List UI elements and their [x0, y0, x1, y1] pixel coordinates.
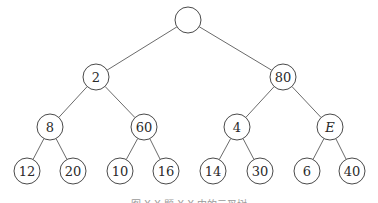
tree-node-4: 4 [224, 114, 250, 140]
tree-edge [336, 139, 346, 160]
node-label: 2 [92, 70, 100, 85]
tree-node-6: 6 [294, 158, 320, 184]
tree-edges [33, 27, 346, 160]
tree-node-2: 2 [83, 64, 109, 90]
node-label: E [324, 120, 335, 135]
tree-edge [243, 139, 254, 160]
tree-node-40: 40 [339, 158, 365, 184]
node-label: 60 [136, 120, 153, 135]
node-label: 8 [46, 120, 54, 135]
tree-node-14: 14 [200, 158, 226, 184]
node-circle [175, 7, 201, 33]
tree-edge [150, 139, 160, 160]
tree-node-10: 10 [107, 158, 133, 184]
tree-node-20: 20 [60, 158, 86, 184]
tree-node-60: 60 [131, 114, 157, 140]
tree-node-8: 8 [37, 114, 63, 140]
tree-edge [59, 87, 87, 118]
node-label: 12 [19, 164, 36, 179]
node-label: 10 [112, 164, 129, 179]
tree-edge [56, 139, 67, 160]
tree-edge [219, 138, 231, 159]
tree-edge [107, 27, 177, 70]
binary-tree-diagram: 2808604E122010161430640 [0, 0, 378, 203]
figure-caption: 图 X.X 题 X.X 中的二叉树 [0, 196, 378, 203]
node-label: 80 [275, 70, 292, 85]
node-label: 6 [303, 164, 311, 179]
tree-edge [33, 139, 44, 160]
tree-node-16: 16 [153, 158, 179, 184]
tree-edge [246, 87, 274, 118]
tree-edge [313, 139, 324, 160]
tree-node-E: E [317, 114, 343, 140]
node-label: 16 [158, 164, 175, 179]
tree-edge [292, 86, 321, 117]
node-label: 20 [65, 164, 82, 179]
tree-node-12: 12 [14, 158, 40, 184]
tree-node-root [175, 7, 201, 33]
node-label: 14 [205, 164, 222, 179]
tree-edge [105, 86, 135, 117]
tree-edge [199, 27, 272, 71]
tree-node-30: 30 [247, 158, 273, 184]
node-label: 4 [233, 120, 241, 135]
tree-nodes: 2808604E122010161430640 [14, 7, 365, 184]
node-label: 40 [344, 164, 361, 179]
tree-node-80: 80 [270, 64, 296, 90]
tree-edge [126, 138, 138, 159]
node-label: 30 [252, 164, 269, 179]
